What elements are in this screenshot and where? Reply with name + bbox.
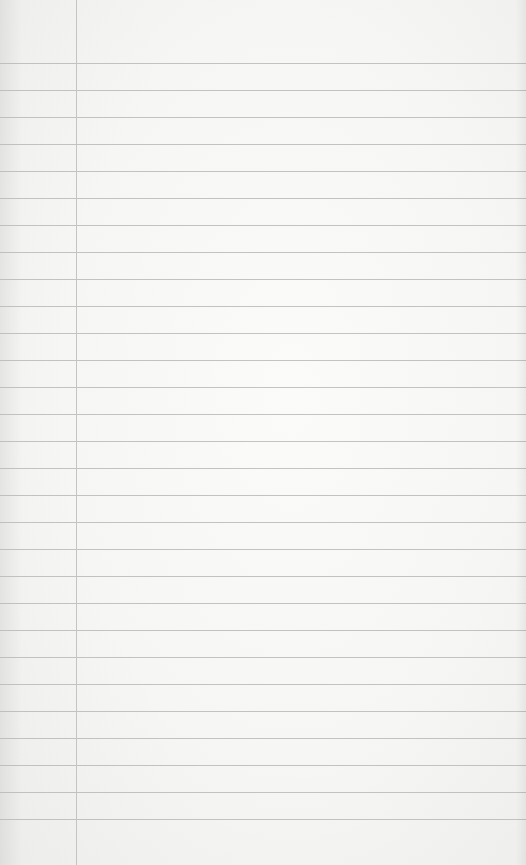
- ruled-line: [0, 387, 526, 388]
- ruled-line: [0, 144, 526, 145]
- ruled-line: [0, 495, 526, 496]
- ruled-line: [0, 468, 526, 469]
- ruled-line: [0, 549, 526, 550]
- ruled-line: [0, 603, 526, 604]
- ruled-line: [0, 198, 526, 199]
- ruled-line: [0, 738, 526, 739]
- ruled-line: [0, 414, 526, 415]
- ruled-line: [0, 360, 526, 361]
- ruled-line: [0, 252, 526, 253]
- ruled-line: [0, 90, 526, 91]
- ruled-line: [0, 792, 526, 793]
- ruled-line: [0, 63, 526, 64]
- ruled-line: [0, 630, 526, 631]
- ruled-line: [0, 576, 526, 577]
- ruled-line: [0, 711, 526, 712]
- ruled-line: [0, 279, 526, 280]
- ruled-line: [0, 306, 526, 307]
- ruled-line: [0, 819, 526, 820]
- ruled-line: [0, 684, 526, 685]
- ruled-line: [0, 441, 526, 442]
- ruled-line: [0, 171, 526, 172]
- ruled-paper-sheet: [0, 0, 526, 865]
- ruled-line: [0, 765, 526, 766]
- ruled-line: [0, 333, 526, 334]
- ruled-line: [0, 225, 526, 226]
- margin-line: [76, 0, 77, 865]
- ruled-line: [0, 522, 526, 523]
- ruled-line: [0, 117, 526, 118]
- ruled-line: [0, 657, 526, 658]
